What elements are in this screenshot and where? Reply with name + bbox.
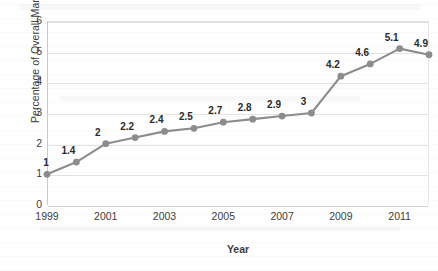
- data-point-marker: [191, 125, 198, 132]
- line-chart-figure: Percentage of Overall Market 0123456 199…: [0, 0, 438, 271]
- data-label-1999: 1: [43, 157, 49, 168]
- data-label-2006: 2.8: [238, 102, 252, 113]
- data-point-marker: [220, 119, 227, 126]
- data-label-2009: 4.2: [326, 59, 340, 70]
- data-point-marker: [249, 116, 256, 123]
- data-point-marker: [396, 45, 403, 52]
- data-point-marker: [102, 140, 109, 147]
- data-label-2002: 2.2: [120, 121, 134, 132]
- data-point-marker: [44, 171, 51, 178]
- data-label-2010: 4.6: [355, 47, 369, 58]
- data-label-2003: 2.4: [150, 114, 164, 125]
- data-label-2000: 1.4: [61, 145, 75, 156]
- data-label-2004: 2.5: [179, 111, 193, 122]
- x-axis-title: Year: [47, 243, 429, 255]
- data-label-2001: 2: [95, 127, 101, 138]
- series-line-and-markers: [0, 0, 438, 271]
- data-point-marker: [308, 110, 315, 117]
- data-label-2011: 5.1: [385, 32, 399, 43]
- data-point-marker: [73, 159, 80, 166]
- data-label-2005: 2.7: [208, 105, 222, 116]
- data-label-2012: 4.9: [414, 38, 428, 49]
- data-label-2008: 3: [301, 96, 307, 107]
- data-point-marker: [161, 128, 168, 135]
- data-point-marker: [132, 134, 139, 141]
- data-point-marker: [337, 73, 344, 80]
- data-point-marker: [279, 113, 286, 120]
- data-label-2007: 2.9: [267, 99, 281, 110]
- data-point-marker: [426, 51, 433, 58]
- data-point-marker: [367, 61, 374, 68]
